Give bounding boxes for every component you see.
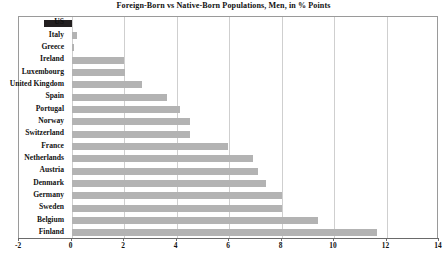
y-label-norway: Norway [38, 117, 64, 125]
x-tick-label-7: 12 [382, 242, 389, 249]
bar-france [72, 143, 228, 150]
y-label-us: US [54, 18, 64, 26]
bar-germany [72, 192, 282, 199]
y-label-denmark: Denmark [33, 179, 64, 187]
plot-area [18, 16, 438, 238]
x-tick-label-2: 2 [121, 242, 125, 249]
y-label-sweden: Sweden [39, 203, 64, 211]
bar-greece [72, 44, 75, 51]
y-label-germany: Germany [33, 191, 64, 199]
y-label-greece: Greece [41, 43, 64, 51]
x-tick-label-1: 0 [69, 242, 73, 249]
bar-luxembourg [72, 69, 126, 76]
bar-portugal [72, 106, 181, 113]
bar-norway [72, 118, 190, 125]
x-tick-label-0: -2 [15, 242, 21, 249]
bar-italy [72, 32, 77, 39]
x-tick-label-4: 6 [226, 242, 230, 249]
y-label-italy: Italy [49, 31, 64, 39]
y-label-spain: Spain [45, 92, 64, 100]
x-tick-label-6: 10 [329, 242, 336, 249]
x-tick-label-3: 4 [174, 242, 178, 249]
y-label-portugal: Portugal [36, 105, 64, 113]
bar-belgium [72, 217, 319, 224]
y-label-finland: Finland [39, 228, 64, 236]
x-tick-label-8: 14 [434, 242, 441, 249]
bar-sweden [72, 205, 282, 212]
bars-layer [19, 17, 437, 238]
y-label-switzerland: Switzerland [25, 129, 64, 137]
chart-title: Foreign-Born vs Native-Born Populations,… [0, 1, 447, 10]
y-label-france: France [41, 142, 64, 150]
y-axis-labels: USItalyGreeceIrelandLuxembourgUnited Kin… [0, 16, 66, 238]
y-label-netherlands: Netherlands [24, 154, 64, 162]
y-label-united-kingdom: United Kingdom [10, 80, 64, 88]
y-label-austria: Austria [40, 166, 64, 174]
bar-united-kingdom [72, 81, 143, 88]
y-label-luxembourg: Luxembourg [22, 68, 64, 76]
bar-spain [72, 94, 168, 101]
y-label-ireland: Ireland [40, 55, 64, 63]
bar-denmark [72, 180, 266, 187]
bar-austria [72, 168, 258, 175]
bar-switzerland [72, 131, 190, 138]
bar-ireland [72, 57, 125, 64]
x-tick-label-5: 8 [279, 242, 283, 249]
bar-finland [72, 229, 378, 236]
bar-netherlands [72, 155, 253, 162]
y-label-belgium: Belgium [37, 216, 64, 224]
chart-container: Foreign-Born vs Native-Born Populations,… [0, 0, 447, 254]
